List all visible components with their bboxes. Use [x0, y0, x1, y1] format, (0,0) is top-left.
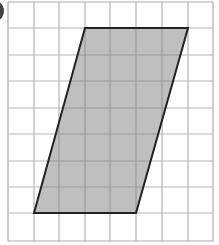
figure-canvas: [0, 0, 219, 245]
parallelogram-shape: [34, 28, 188, 213]
parallelogram-grid-figure: [0, 0, 219, 245]
